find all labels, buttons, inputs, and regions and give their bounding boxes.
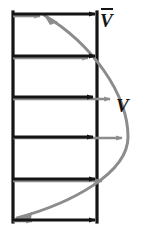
mean-velocity-symbol: V: [100, 11, 113, 30]
velocity-profile-diagram: [0, 0, 143, 234]
profile-curve-path: [17, 15, 128, 218]
velocity-profile-figure: V V: [0, 0, 143, 234]
parabolic-profile-curve: [16, 15, 128, 219]
velocity-label: V: [116, 96, 129, 115]
profile-velocity-arrows: [13, 16, 122, 221]
velocity-symbol: V: [116, 95, 129, 116]
mean-velocity-label: V: [100, 8, 113, 30]
